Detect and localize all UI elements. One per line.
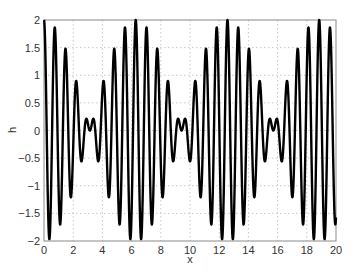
y-axis-label: h	[6, 127, 18, 133]
x-tick-label: 14	[242, 244, 254, 256]
y-tick-label: −1	[27, 180, 40, 192]
x-tick-label: 8	[158, 244, 164, 256]
x-tick-label: 18	[301, 244, 313, 256]
grid-lines	[44, 20, 336, 241]
y-tick-label: 1.5	[25, 42, 40, 54]
x-axis-label: x	[187, 253, 193, 265]
y-tick-label: 0.5	[25, 97, 40, 109]
x-tick-label: 2	[70, 244, 76, 256]
x-tick-label: 4	[99, 244, 105, 256]
y-tick-label: 0	[34, 125, 40, 137]
x-tick-label: 0	[41, 244, 47, 256]
y-axis-ticks: −2−1.5−1−0.500.511.52	[18, 14, 40, 247]
x-tick-label: 20	[330, 244, 342, 256]
line-chart: 02468101214161820 −2−1.5−1−0.500.511.52 …	[0, 0, 354, 277]
y-tick-label: −0.5	[18, 152, 40, 164]
y-tick-label: −1.5	[18, 207, 40, 219]
x-tick-label: 6	[129, 244, 135, 256]
y-tick-label: 1	[34, 69, 40, 81]
x-tick-label: 12	[213, 244, 225, 256]
y-tick-label: −2	[27, 235, 40, 247]
x-tick-label: 16	[271, 244, 283, 256]
y-tick-label: 2	[34, 14, 40, 26]
